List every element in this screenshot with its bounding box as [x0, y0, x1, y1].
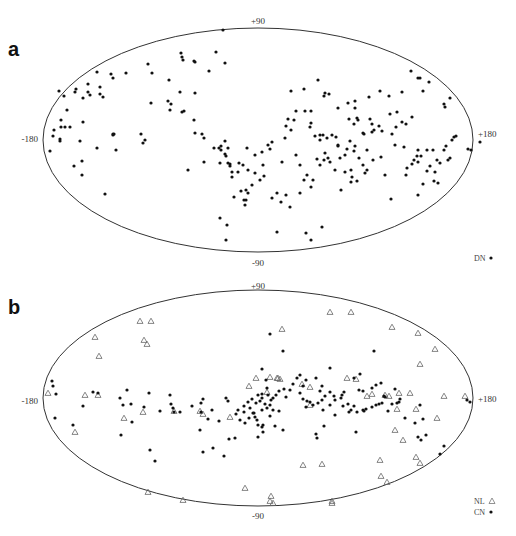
- cn-data-point: [217, 419, 220, 422]
- dn-data-point: [166, 99, 169, 102]
- dn-data-point: [309, 109, 312, 112]
- cn-data-point: [51, 384, 54, 387]
- dn-data-point: [253, 171, 256, 174]
- cn-data-point: [314, 432, 317, 435]
- cn-data-point: [118, 396, 121, 399]
- dn-data-point: [454, 134, 457, 137]
- cn-data-point: [416, 435, 419, 438]
- cn-data-point: [398, 397, 401, 400]
- cn-data-point: [301, 384, 304, 387]
- dn-data-point: [124, 71, 127, 74]
- dn-data-point: [168, 108, 171, 111]
- dn-data-point: [372, 128, 375, 131]
- dn-data-point: [393, 143, 396, 146]
- dn-data-point: [421, 89, 424, 92]
- nl-data-point: [348, 309, 354, 314]
- dn-data-point: [244, 198, 247, 201]
- panel-a-top-label: +90: [251, 16, 266, 26]
- cn-data-point: [119, 433, 122, 436]
- dn-data-point: [243, 203, 246, 206]
- dn-data-point: [253, 153, 256, 156]
- legend-cn-dot-icon: [489, 510, 492, 513]
- dn-data-point: [230, 175, 233, 178]
- cn-data-point: [178, 410, 181, 413]
- cn-data-point: [242, 410, 245, 413]
- cn-data-point: [291, 382, 294, 385]
- cn-data-point: [352, 376, 355, 379]
- nl-data-point: [96, 353, 102, 358]
- cn-data-point: [199, 410, 202, 413]
- dn-data-point: [442, 148, 445, 151]
- dn-data-point: [435, 158, 438, 161]
- dn-data-point: [368, 117, 371, 120]
- dn-data-point: [149, 101, 152, 104]
- nl-data-point: [144, 341, 150, 346]
- dn-data-point: [226, 146, 229, 149]
- panel-b-bottom-label: -90: [252, 511, 264, 521]
- cn-data-point: [260, 396, 263, 399]
- dn-data-point: [313, 134, 316, 137]
- nl-data-point: [242, 485, 248, 490]
- dn-data-point: [150, 71, 153, 74]
- dn-data-point: [221, 28, 224, 31]
- dn-data-point: [348, 139, 351, 142]
- nl-data-point: [45, 390, 51, 395]
- dn-data-point: [218, 161, 221, 164]
- cn-data-point: [206, 417, 209, 420]
- dn-data-point: [98, 92, 101, 95]
- dn-data-point: [95, 146, 98, 149]
- cn-data-point: [263, 402, 266, 405]
- dn-data-point: [219, 144, 222, 147]
- cn-data-point: [372, 349, 375, 352]
- dn-data-point: [275, 191, 278, 194]
- nl-data-point: [246, 383, 252, 388]
- dn-data-point: [410, 162, 413, 165]
- cn-data-point: [226, 399, 229, 402]
- dn-data-point: [81, 96, 84, 99]
- dn-data-point: [236, 170, 239, 173]
- dn-data-point: [288, 205, 291, 208]
- cn-data-point: [341, 404, 344, 407]
- panel-b-legend: NL CN: [474, 497, 495, 517]
- dn-data-point: [443, 105, 446, 108]
- cn-data-point: [419, 438, 422, 441]
- cn-data-point: [198, 428, 201, 431]
- dn-data-point: [114, 148, 117, 151]
- dn-data-point: [478, 140, 481, 143]
- dn-data-point: [139, 132, 142, 135]
- cn-data-point: [54, 392, 57, 395]
- nl-data-point: [253, 375, 259, 380]
- cn-data-point: [247, 416, 250, 419]
- cn-data-point: [397, 400, 400, 403]
- nl-data-point: [148, 318, 154, 323]
- cn-data-point: [386, 409, 389, 412]
- dn-data-point: [298, 163, 301, 166]
- dn-data-point: [241, 163, 244, 166]
- cn-data-point: [316, 401, 319, 404]
- nl-data-point: [329, 500, 335, 505]
- dn-data-point: [266, 143, 269, 146]
- cn-data-point: [246, 400, 249, 403]
- dn-data-point: [52, 128, 55, 131]
- dn-data-point: [334, 135, 337, 138]
- dn-data-point: [58, 139, 61, 142]
- dn-data-point: [315, 157, 318, 160]
- cn-data-point: [298, 391, 301, 394]
- dn-data-point: [388, 112, 391, 115]
- panel-b-letter: b: [8, 296, 20, 318]
- dn-data-point: [284, 124, 287, 127]
- cn-data-point: [142, 405, 145, 408]
- dn-data-point: [322, 94, 325, 97]
- cn-data-point: [355, 410, 358, 413]
- dn-data-point: [339, 188, 342, 191]
- dn-data-point: [318, 163, 321, 166]
- nl-data-point: [369, 391, 375, 396]
- cn-data-point: [256, 393, 259, 396]
- nl-data-point: [227, 414, 233, 419]
- dn-data-point: [258, 178, 261, 181]
- panel-b-left-label: -180: [22, 396, 39, 406]
- cn-data-point: [288, 388, 291, 391]
- panel-b-sky-ellipse: [43, 290, 473, 506]
- cn-data-point: [281, 428, 284, 431]
- cn-data-point: [320, 384, 323, 387]
